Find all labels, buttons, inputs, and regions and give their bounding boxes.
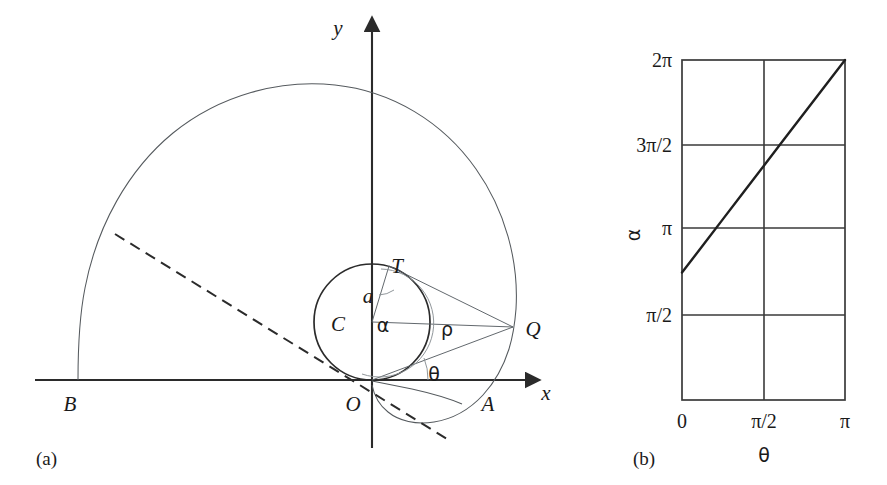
caption-b: (b)	[633, 448, 655, 470]
ytick-label-pi: π	[662, 217, 672, 239]
x-axis-label-b: θ	[758, 444, 770, 466]
x-axis-label: x	[540, 381, 551, 405]
ytick-label-pi2: π/2	[646, 304, 672, 326]
point-label-a: A	[480, 392, 495, 416]
panel-a: y x B O A T C Q a α ρ θ (a)	[35, 16, 551, 470]
point-label-q: Q	[525, 317, 540, 341]
caption-a: (a)	[36, 448, 57, 470]
figure-root: y x B O A T C Q a α ρ θ (a)	[0, 0, 887, 485]
spiral-curve	[78, 84, 516, 423]
spiral-inner-arc	[372, 381, 462, 404]
radius-label-a: a	[363, 284, 374, 308]
y-axis-label-b: α	[622, 229, 644, 242]
xtick-label-pi: π	[840, 410, 850, 432]
y-axis-label: y	[331, 16, 343, 40]
xtick-label-0: 0	[677, 410, 687, 432]
panel-b: 2π 3π/2 π π/2 0 π/2 π α θ (b)	[622, 49, 850, 470]
rho-label: ρ	[441, 318, 453, 340]
theta-label: θ	[428, 363, 440, 385]
ytick-label-2pi: 2π	[652, 49, 672, 71]
ytick-label-3pi2: 3π/2	[636, 134, 672, 156]
point-label-t: T	[391, 254, 404, 278]
figure-svg: y x B O A T C Q a α ρ θ (a)	[0, 0, 887, 485]
point-label-o: O	[345, 392, 360, 416]
point-label-c: C	[331, 312, 346, 336]
point-label-b: B	[64, 392, 77, 416]
alpha-label: α	[377, 314, 390, 336]
xtick-label-pi2: π/2	[751, 410, 777, 432]
